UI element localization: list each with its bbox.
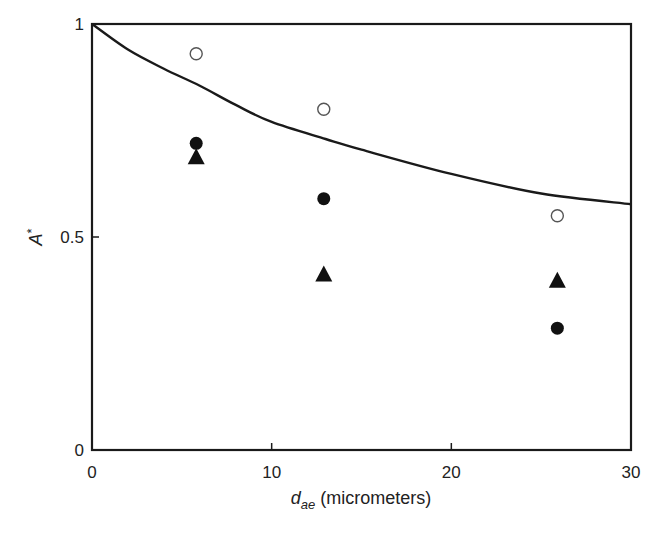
plot-frame <box>92 24 631 450</box>
y-tick-label: 0 <box>75 441 84 460</box>
y-tick-label: 1 <box>75 15 84 34</box>
series-layer <box>92 24 631 335</box>
x-axis-label-sub: ae <box>301 497 315 512</box>
filled-circle-marker <box>551 322 564 335</box>
y-tick-label: 0.5 <box>60 228 84 247</box>
model-curve <box>92 24 631 204</box>
filled-triangle-marker <box>549 272 566 288</box>
x-axis-label-rest: (micrometers) <box>315 488 431 508</box>
open-circle-marker <box>551 210 563 222</box>
filled-circle-marker <box>190 137 203 150</box>
x-tick-label: 20 <box>442 463 461 482</box>
filled-triangle-marker <box>315 265 332 281</box>
open-circles-series <box>190 48 563 222</box>
open-circle-marker <box>190 48 202 60</box>
tick-labels: 010203000.51 <box>60 15 640 482</box>
x-tick-label: 0 <box>87 463 96 482</box>
filled-triangles-series <box>188 148 566 288</box>
x-tick-label: 10 <box>262 463 281 482</box>
y-axis-label-sup: * <box>24 228 39 233</box>
axis-ticks <box>92 237 451 450</box>
y-axis-label-main: A <box>26 234 46 247</box>
filled-circles-series <box>190 137 564 335</box>
filled-circle-marker <box>317 192 330 205</box>
open-circle-marker <box>318 103 330 115</box>
x-tick-label: 30 <box>622 463 641 482</box>
filled-triangle-marker <box>188 148 205 164</box>
chart: 010203000.51 dae (micrometers) A* <box>0 0 662 537</box>
y-axis-label: A* <box>24 228 46 246</box>
x-axis-label: dae (micrometers) <box>291 488 431 512</box>
